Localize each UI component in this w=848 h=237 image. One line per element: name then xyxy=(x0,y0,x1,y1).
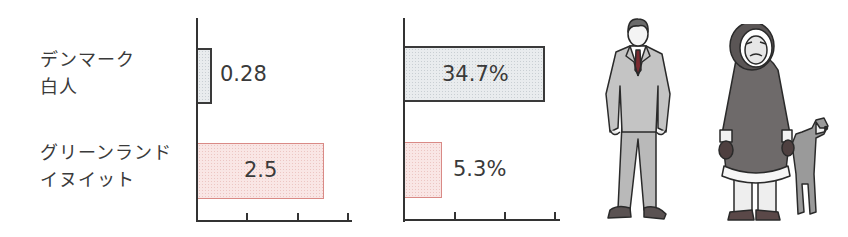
chart1-tick xyxy=(246,213,248,221)
businessman-icon xyxy=(600,14,680,226)
chart1-value-greenland: 2.5 xyxy=(244,158,277,182)
chart2-tick xyxy=(504,212,506,220)
category-label-greenland-line1: グリーンランド xyxy=(40,139,172,166)
chart2-value-greenland: 5.3% xyxy=(453,157,506,181)
category-label-denmark-line1: デンマーク xyxy=(40,46,135,73)
category-label-greenland-line2: イヌイット xyxy=(40,166,135,193)
chart2-bar-greenland xyxy=(405,142,442,198)
chart1-bar-denmark xyxy=(198,48,212,104)
chart2-tick xyxy=(554,212,556,220)
chart1-x-axis xyxy=(196,220,352,222)
category-label-denmark-line2: 白人 xyxy=(40,73,78,100)
inuit-with-dog-icon xyxy=(712,24,842,224)
chart2-tick xyxy=(454,212,456,220)
chart2-value-denmark: 34.7% xyxy=(442,62,509,86)
chart1-tick xyxy=(297,213,299,221)
chart2-x-axis xyxy=(403,219,560,221)
chart1-value-denmark: 0.28 xyxy=(220,62,267,86)
chart1-tick xyxy=(347,213,349,221)
